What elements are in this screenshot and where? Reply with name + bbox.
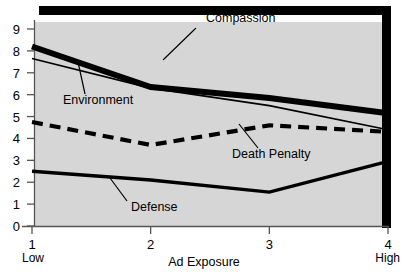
y-tick-label-2: 2: [13, 175, 20, 190]
x-tick-label-3: 3: [266, 237, 273, 252]
x-tick-label-4: 4: [384, 237, 391, 252]
x-tick-sublabel-high: High: [375, 251, 400, 265]
y-tick-label-0: 0: [13, 219, 20, 234]
y-tick-label-8: 8: [13, 44, 20, 59]
series-label-compassion: Compassion: [206, 11, 276, 25]
y-tick-label-7: 7: [13, 66, 20, 81]
series-label-environment: Environment: [63, 93, 134, 107]
y-tick-label-5: 5: [13, 110, 20, 125]
series-label-death-penalty: Death Penalty: [232, 147, 311, 161]
x-tick-label-2: 2: [147, 237, 154, 252]
plot-area-background: [35, 22, 387, 226]
chart-container: 0123456789 1Low234High CompassionEnviron…: [0, 0, 409, 272]
x-tick-sublabel-low: Low: [22, 251, 44, 265]
y-tick-label-6: 6: [13, 88, 20, 103]
y-tick-label-9: 9: [13, 22, 20, 37]
series-label-defense: Defense: [131, 200, 178, 214]
y-axis-ticks: 0123456789: [13, 22, 35, 234]
x-axis-title: Ad Exposure: [168, 255, 240, 269]
y-tick-label-3: 3: [13, 153, 20, 168]
line-chart: 0123456789 1Low234High CompassionEnviron…: [0, 0, 409, 272]
y-tick-label-4: 4: [13, 131, 20, 146]
y-tick-label-1: 1: [13, 197, 20, 212]
plot-frame-right: [382, 6, 391, 228]
x-tick-label-1: 1: [28, 237, 35, 252]
